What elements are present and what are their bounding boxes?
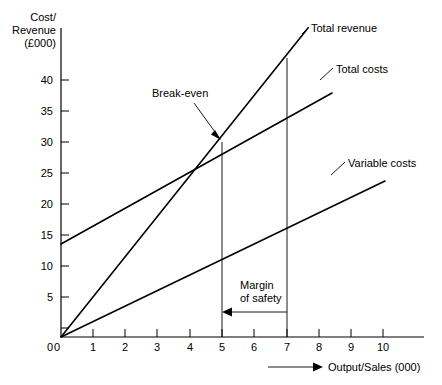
- break-even-arrow-shaft: [194, 103, 215, 132]
- break-even-arrow-head: [211, 130, 221, 140]
- total-costs-leader-line: [320, 68, 333, 80]
- x-tick-label-6: 6: [251, 341, 257, 353]
- total-revenue-label-group: Total revenue: [302, 22, 377, 34]
- break-even-label: Break-even: [152, 87, 208, 99]
- variable-costs-line: [61, 181, 385, 337]
- x-axis-direction-arrow-head: [313, 363, 323, 372]
- y-tick-label-35: 35: [41, 105, 53, 117]
- x-tick-label-3: 3: [154, 341, 160, 353]
- x-axis-title: Output/Sales (000): [328, 361, 420, 373]
- x-tick-label-2: 2: [122, 341, 128, 353]
- variable-costs-label: Variable costs: [348, 157, 417, 169]
- y-tick-label-10: 10: [41, 260, 53, 272]
- y-axis-title-line-1: Cost/: [30, 11, 57, 23]
- y-tick-label-20: 20: [41, 198, 53, 210]
- total-revenue-label: Total revenue: [311, 22, 377, 34]
- x-tick-label-1: 1: [90, 341, 96, 353]
- total-costs-label: Total costs: [336, 63, 388, 75]
- x-tick-label-5: 5: [219, 341, 225, 353]
- y-axis-ticks: [61, 80, 69, 328]
- break-even-annotation: Break-even: [152, 87, 221, 140]
- y-axis-title-line-3: (£000): [24, 37, 56, 49]
- x-tick-label-9: 9: [348, 341, 354, 353]
- margin-of-safety-annotation: Margin of safety: [222, 279, 287, 317]
- x-axis-ticks: [93, 329, 383, 337]
- margin-of-safety-label-line-2: of safety: [240, 292, 282, 304]
- x-tick-label-7: 7: [284, 341, 290, 353]
- y-axis-title: Cost/ Revenue (£000): [12, 11, 57, 49]
- x-tick-label-10: 10: [377, 341, 389, 353]
- total-costs-label-group: Total costs: [320, 63, 388, 80]
- y-tick-label-0: 0: [47, 341, 53, 353]
- margin-of-safety-label-line-1: Margin: [240, 279, 274, 291]
- x-tick-label-8: 8: [316, 341, 322, 353]
- y-tick-label-5: 5: [47, 291, 53, 303]
- break-even-chart: 40 35 30 25 20 15 10 5 0 Cost/ Revenue (…: [0, 0, 442, 385]
- y-tick-label-40: 40: [41, 74, 53, 86]
- total-costs-line: [61, 93, 332, 244]
- y-tick-label-25: 25: [41, 167, 53, 179]
- variable-costs-leader-line: [331, 162, 345, 175]
- y-axis-title-line-2: Revenue: [12, 24, 56, 36]
- x-tick-label-4: 4: [187, 341, 193, 353]
- x-axis-tick-labels: 0 1 2 3 4 5 6 7 8 9 10: [54, 341, 389, 353]
- x-tick-label-0: 0: [54, 341, 60, 353]
- margin-of-safety-arrow-head: [222, 308, 232, 317]
- y-tick-label-30: 30: [41, 136, 53, 148]
- variable-costs-label-group: Variable costs: [331, 157, 417, 175]
- chart-canvas: 40 35 30 25 20 15 10 5 0 Cost/ Revenue (…: [0, 0, 442, 385]
- x-axis-title-group: Output/Sales (000): [268, 361, 420, 373]
- total-revenue-leader-line: [302, 27, 309, 34]
- y-tick-label-15: 15: [41, 229, 53, 241]
- y-axis-tick-labels: 40 35 30 25 20 15 10 5 0: [41, 74, 53, 353]
